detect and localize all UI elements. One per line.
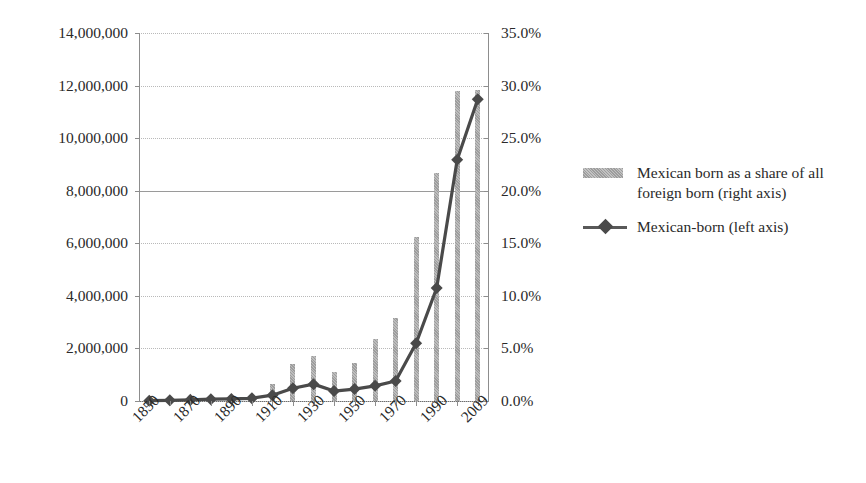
y-axis-right-tick-label: 35.0% xyxy=(501,25,541,41)
line-marker-2009 xyxy=(472,93,484,105)
chart-figure: 02,000,0004,000,0006,000,0008,000,00010,… xyxy=(0,0,866,483)
line-marker-2000 xyxy=(451,154,463,166)
line-marker-1930 xyxy=(307,378,319,390)
x-tick xyxy=(416,401,417,406)
line-marker-1960 xyxy=(369,380,381,392)
y-tick-right xyxy=(484,348,489,349)
y-tick-left xyxy=(135,138,140,139)
line-marker-icon xyxy=(583,217,629,237)
x-tick xyxy=(334,401,335,406)
y-axis-right-tick-label: 0.0% xyxy=(501,393,533,409)
line-series-mexican-born xyxy=(139,33,488,401)
y-tick-left xyxy=(135,33,140,34)
y-axis-left-tick-label: 4,000,000 xyxy=(0,288,128,304)
y-axis-right-tick-label: 30.0% xyxy=(501,78,541,94)
x-tick xyxy=(170,401,171,406)
y-tick-right xyxy=(484,191,489,192)
y-tick-right xyxy=(484,33,489,34)
y-axis-right-tick-label: 25.0% xyxy=(501,130,541,146)
y-tick-left xyxy=(135,243,140,244)
legend-label-share-bars: Mexican born as a share of all foreign b… xyxy=(637,163,855,203)
y-tick-left xyxy=(135,86,140,87)
y-axis-left-tick-label: 6,000,000 xyxy=(0,235,128,251)
bar-swatch-icon xyxy=(583,163,629,183)
x-tick xyxy=(252,401,253,406)
y-axis-left-tick-label: 14,000,000 xyxy=(0,25,128,41)
chart-legend: Mexican born as a share of all foreign b… xyxy=(583,163,855,251)
y-axis-right-tick-label: 10.0% xyxy=(501,288,541,304)
x-tick xyxy=(211,401,212,406)
y-axis-left-tick-label: 10,000,000 xyxy=(0,130,128,146)
line-marker-1920 xyxy=(287,382,299,394)
legend-item-mexican-born-line: Mexican-born (left axis) xyxy=(583,217,855,237)
y-axis-right-tick-label: 15.0% xyxy=(501,235,541,251)
line-marker-1970 xyxy=(390,375,402,387)
y-axis-right-tick-label: 20.0% xyxy=(501,183,541,199)
x-tick xyxy=(457,401,458,406)
y-axis-left-tick-label: 12,000,000 xyxy=(0,78,128,94)
y-tick-right xyxy=(484,86,489,87)
y-axis-left-tick-label: 8,000,000 xyxy=(0,183,128,199)
x-tick xyxy=(293,401,294,406)
y-axis-right-tick-label: 5.0% xyxy=(501,340,533,356)
line-marker-1940 xyxy=(328,385,340,397)
line-path xyxy=(149,99,477,400)
legend-label-mexican-born-line: Mexican-born (left axis) xyxy=(637,217,855,237)
y-tick-right xyxy=(484,243,489,244)
line-marker-1980 xyxy=(410,337,422,349)
legend-item-share-bars: Mexican born as a share of all foreign b… xyxy=(583,163,855,203)
y-tick-left xyxy=(135,348,140,349)
x-tick xyxy=(375,401,376,406)
y-tick-right xyxy=(484,296,489,297)
y-axis-right-line xyxy=(488,33,489,401)
y-tick-right xyxy=(484,138,489,139)
y-axis-left-tick-label: 2,000,000 xyxy=(0,340,128,356)
line-marker-1990 xyxy=(431,282,443,294)
y-tick-left xyxy=(135,296,140,297)
y-tick-left xyxy=(135,191,140,192)
y-axis-left-tick-label: 0 xyxy=(0,393,128,409)
